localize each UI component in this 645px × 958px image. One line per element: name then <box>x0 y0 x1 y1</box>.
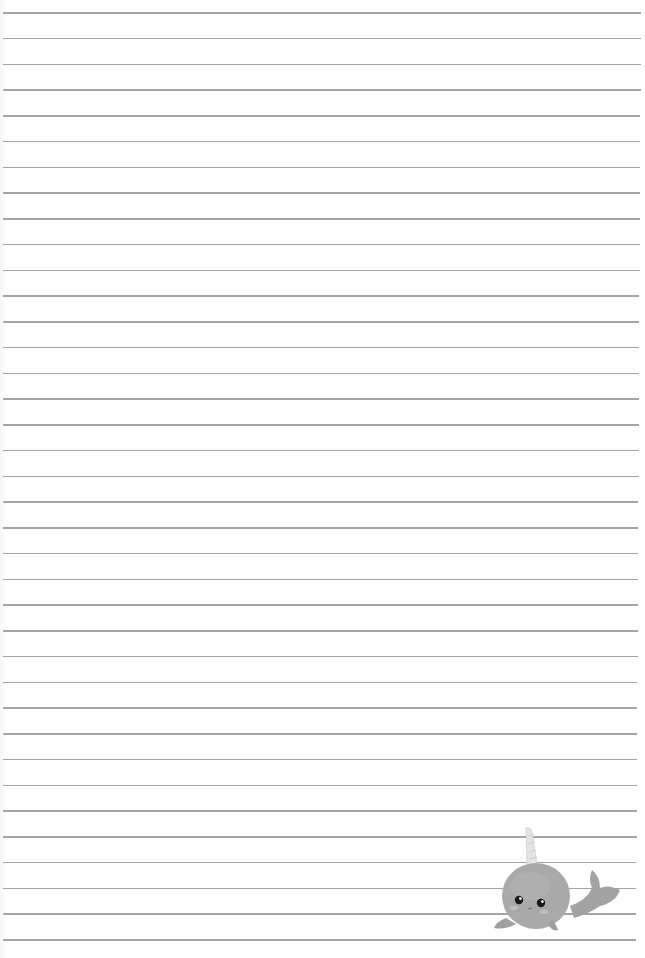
ruled-line <box>3 141 640 143</box>
ruled-line <box>3 707 637 709</box>
narwhal-body <box>494 863 570 930</box>
ruled-line <box>3 682 637 684</box>
page-left-edge-shadow <box>0 0 6 958</box>
ruled-line <box>3 501 638 503</box>
ruled-line <box>3 604 638 606</box>
ruled-line <box>3 450 639 452</box>
ruled-line <box>3 12 641 14</box>
ruled-line <box>3 347 639 349</box>
ruled-line <box>3 373 639 375</box>
ruled-line <box>3 244 640 246</box>
lined-paper-page <box>0 0 645 958</box>
ruled-line <box>3 398 639 400</box>
narwhal-tail <box>570 870 620 918</box>
ruled-line <box>3 553 638 555</box>
narwhal-cheek-right <box>540 910 548 914</box>
ruled-line <box>3 295 639 297</box>
ruled-line <box>3 939 636 941</box>
ruled-line <box>3 89 641 91</box>
ruled-line <box>3 733 637 735</box>
ruled-line <box>3 579 638 581</box>
ruled-line <box>3 218 640 220</box>
ruled-line <box>3 810 637 812</box>
ruled-line <box>3 192 640 194</box>
ruled-line <box>3 167 640 169</box>
ruled-line <box>3 476 639 478</box>
ruled-line <box>3 321 639 323</box>
ruled-line <box>3 424 639 426</box>
narwhal-cheek-left <box>510 906 518 910</box>
ruled-line <box>3 759 637 761</box>
ruled-line <box>3 64 641 66</box>
narwhal-icon <box>492 822 632 938</box>
ruled-line <box>3 656 638 658</box>
ruled-line <box>3 270 640 272</box>
narwhal-horn <box>526 828 537 867</box>
ruled-line <box>3 38 641 40</box>
ruled-line <box>3 630 638 632</box>
ruled-line <box>3 115 640 117</box>
ruled-line <box>3 785 637 787</box>
ruled-line <box>3 527 638 529</box>
